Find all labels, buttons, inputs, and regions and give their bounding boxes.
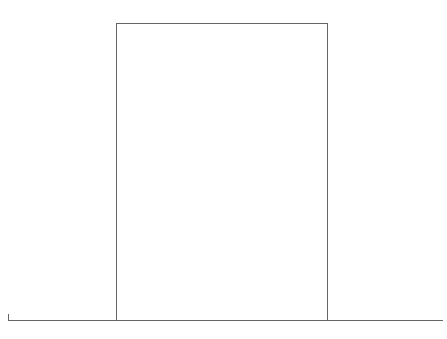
top-border (117, 23, 327, 24)
left-border (116, 23, 117, 320)
bottom-border (8, 320, 443, 321)
bottom-left-tick (8, 314, 9, 321)
right-border (327, 23, 328, 320)
